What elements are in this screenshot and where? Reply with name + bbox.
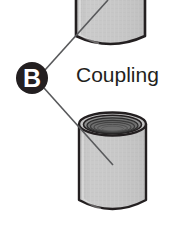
part-label-coupling: Coupling	[76, 63, 159, 86]
coupling-callout-diagram: B Coupling	[0, 0, 172, 230]
callout-badge-b[interactable]: B	[16, 62, 48, 94]
callout-letter: B	[23, 64, 41, 92]
diagram-canvas: B Coupling	[0, 0, 172, 230]
